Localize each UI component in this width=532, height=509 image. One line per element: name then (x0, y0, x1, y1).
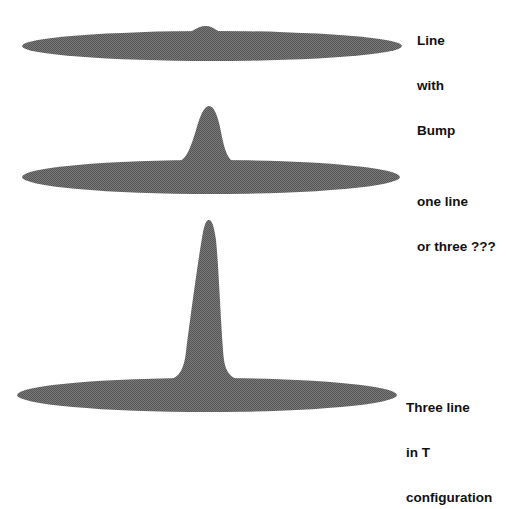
label-line: with (417, 78, 455, 93)
label-line: Bump (417, 123, 455, 138)
label-line: Line (417, 33, 455, 48)
shape-three-line-t (17, 220, 397, 412)
label-line: in T (406, 445, 492, 460)
shape-one-line-or-three (22, 106, 400, 194)
label-line: configuration (406, 490, 492, 505)
label-line: one line (417, 194, 496, 209)
label-one-line-or-three: one line or three ??? (417, 164, 496, 269)
label-line-with-bump: Line with Bump (417, 3, 455, 153)
label-line: or three ??? (417, 239, 496, 254)
label-three-line-t: Three line in T configuration (406, 370, 492, 509)
label-line: Three line (406, 400, 492, 415)
shape-line-with-bump (22, 26, 402, 61)
